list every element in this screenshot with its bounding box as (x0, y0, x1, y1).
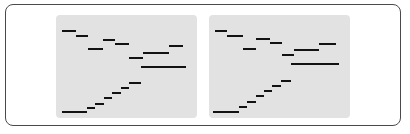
step-segment (112, 92, 120, 94)
step-segment (162, 66, 186, 68)
figure-root (0, 0, 410, 134)
step-segment (62, 30, 76, 32)
step-segment (319, 43, 336, 45)
step-segment (315, 63, 339, 65)
step-segment (227, 111, 238, 113)
step-segment (227, 35, 243, 37)
step-segment (62, 111, 76, 113)
step-segment (264, 90, 272, 92)
step-segment (76, 35, 89, 37)
step-segment (115, 43, 129, 45)
step-segment (272, 85, 280, 87)
step-segment (281, 80, 291, 82)
step-segment (294, 49, 311, 51)
step-segment (169, 45, 183, 47)
step-segment (143, 52, 157, 54)
figure-outer-frame (5, 4, 401, 126)
step-segment (129, 82, 140, 84)
step-segment (243, 48, 256, 50)
step-segment (270, 42, 283, 44)
step-segment (76, 111, 87, 113)
step-segment (282, 54, 293, 56)
step-segment (239, 106, 247, 108)
step-segment (158, 52, 169, 54)
step-segment (141, 66, 162, 68)
step-segment (129, 57, 143, 59)
step-segment (213, 111, 227, 113)
step-segment (103, 39, 116, 41)
step-segment (95, 103, 103, 105)
right-panel-plot-area (209, 15, 350, 118)
step-segment (311, 49, 319, 51)
step-segment (87, 107, 95, 109)
step-segment (256, 38, 270, 40)
step-segment (215, 30, 228, 32)
step-segment (247, 101, 255, 103)
right-panel (209, 15, 350, 118)
step-segment (291, 63, 315, 65)
step-segment (121, 87, 129, 89)
left-panel-plot-area (56, 15, 197, 118)
step-segment (104, 97, 112, 99)
left-panel (56, 15, 197, 118)
step-segment (256, 95, 264, 97)
step-segment (88, 48, 102, 50)
